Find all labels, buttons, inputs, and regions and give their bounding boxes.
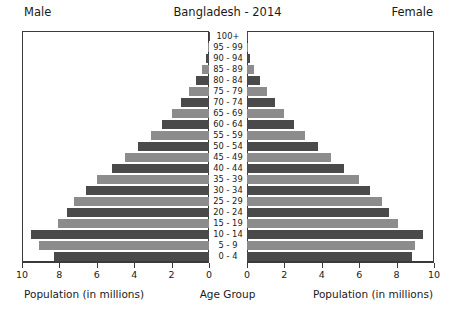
bar-male-70-74 <box>181 98 209 107</box>
axis-tick-label: 0 <box>232 269 262 280</box>
chart-header: Male Bangladesh - 2014 Female <box>0 5 455 25</box>
age-group-label: 80 - 84 <box>209 75 247 86</box>
age-group-label: 5 - 9 <box>209 240 247 251</box>
axis-tick <box>134 263 135 268</box>
age-group-label: 0 - 4 <box>209 251 247 262</box>
bar-male-40-44 <box>112 164 209 173</box>
bar-male-20-24 <box>67 208 209 217</box>
bar-female-25-29 <box>247 197 382 206</box>
bar-male-30-34 <box>86 186 209 195</box>
axis-tick <box>397 263 398 268</box>
axis-tick-label: 8 <box>44 269 74 280</box>
axis-tick-label: 6 <box>82 269 112 280</box>
bar-male-55-59 <box>151 131 209 140</box>
bar-male-35-39 <box>97 175 209 184</box>
bar-female-40-44 <box>247 164 344 173</box>
bar-male-5-9 <box>39 241 209 250</box>
age-group-label: 40 - 44 <box>209 163 247 174</box>
age-group-label: 10 - 14 <box>209 229 247 240</box>
axis-tick <box>172 263 173 268</box>
axis-tick-label: 8 <box>382 269 412 280</box>
axis-tick-label: 10 <box>7 269 37 280</box>
population-pyramid-chart: Male Bangladesh - 2014 Female 100+95 - 9… <box>0 0 455 314</box>
bar-male-25-29 <box>74 197 209 206</box>
bar-female-35-39 <box>247 175 359 184</box>
axis-tick-label: 0 <box>194 269 224 280</box>
chart-title: Bangladesh - 2014 <box>0 5 455 19</box>
axis-tick-label: 2 <box>157 269 187 280</box>
bar-female-20-24 <box>247 208 389 217</box>
bar-male-80-84 <box>196 76 209 85</box>
axis-tick <box>247 263 248 268</box>
axis-tick <box>284 263 285 268</box>
bar-female-10-14 <box>247 230 423 239</box>
female-axis-caption: Population (in millions) <box>313 288 433 300</box>
bar-male-10-14 <box>31 230 209 239</box>
bar-female-75-79 <box>247 87 267 96</box>
age-group-label: 50 - 54 <box>209 141 247 152</box>
age-group-label: 55 - 59 <box>209 130 247 141</box>
axis-tick <box>322 263 323 268</box>
axis-tick <box>22 263 23 268</box>
bar-female-90-94 <box>247 54 250 63</box>
bar-female-50-54 <box>247 142 318 151</box>
bar-male-0-4 <box>54 252 209 261</box>
age-group-label: 25 - 29 <box>209 196 247 207</box>
bar-male-45-49 <box>125 153 209 162</box>
age-group-labels: 100+95 - 9990 - 9485 - 8980 - 8475 - 797… <box>209 31 247 262</box>
age-group-label: 90 - 94 <box>209 53 247 64</box>
axis-tick-label: 4 <box>307 269 337 280</box>
axis-tick <box>434 263 435 268</box>
bar-female-15-19 <box>247 219 398 228</box>
bar-female-70-74 <box>247 98 275 107</box>
bar-male-75-79 <box>189 87 209 96</box>
female-x-axis <box>247 262 434 263</box>
age-group-label: 75 - 79 <box>209 86 247 97</box>
bar-female-30-34 <box>247 186 370 195</box>
age-group-label: 85 - 89 <box>209 64 247 75</box>
axis-tick <box>97 263 98 268</box>
bar-female-80-84 <box>247 76 260 85</box>
axis-tick <box>359 263 360 268</box>
age-group-label: 60 - 64 <box>209 119 247 130</box>
bar-female-95-99 <box>247 43 248 52</box>
age-group-label: 35 - 39 <box>209 174 247 185</box>
bar-female-0-4 <box>247 252 412 261</box>
age-group-label: 100+ <box>209 31 247 42</box>
age-group-label: 15 - 19 <box>209 218 247 229</box>
axis-tick-label: 4 <box>119 269 149 280</box>
bar-male-15-19 <box>58 219 209 228</box>
age-group-label: 65 - 69 <box>209 108 247 119</box>
bar-female-85-89 <box>247 65 254 74</box>
bar-male-65-69 <box>172 109 209 118</box>
bar-male-60-64 <box>162 120 209 129</box>
bar-male-85-89 <box>202 65 209 74</box>
axis-tick-label: 6 <box>344 269 374 280</box>
age-group-label: 30 - 34 <box>209 185 247 196</box>
age-group-label: 70 - 74 <box>209 97 247 108</box>
male-x-axis <box>22 262 209 263</box>
bar-female-5-9 <box>247 241 415 250</box>
bar-female-55-59 <box>247 131 305 140</box>
axis-tick <box>59 263 60 268</box>
axis-tick-label: 10 <box>419 269 449 280</box>
axis-tick-label: 2 <box>269 269 299 280</box>
axis-tick <box>209 263 210 268</box>
age-group-label: 95 - 99 <box>209 42 247 53</box>
age-group-label: 20 - 24 <box>209 207 247 218</box>
bar-male-50-54 <box>138 142 209 151</box>
age-group-label: 45 - 49 <box>209 152 247 163</box>
bar-female-60-64 <box>247 120 294 129</box>
bar-female-45-49 <box>247 153 331 162</box>
bar-female-65-69 <box>247 109 284 118</box>
female-side-label: Female <box>391 5 433 19</box>
